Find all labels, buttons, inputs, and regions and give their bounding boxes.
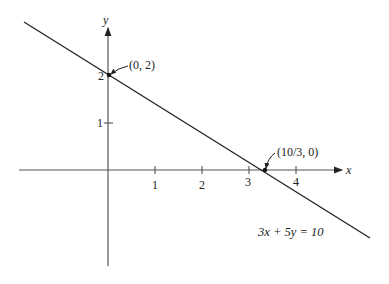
chart-canvas <box>0 0 389 284</box>
arrow-y-intercept <box>111 66 128 74</box>
x-axis-label: x <box>346 164 351 176</box>
x-tick-label-2: 2 <box>199 179 205 191</box>
equation-label: 3x + 5y = 10 <box>258 226 323 239</box>
arrow-x-intercept <box>266 153 275 168</box>
x-tick-label-3: 3 <box>245 176 251 188</box>
point-y-intercept <box>107 73 111 77</box>
y-axis-label: y <box>103 14 108 26</box>
y-tick-label-2: 2 <box>98 70 104 82</box>
x-tick-label-1: 1 <box>152 179 158 191</box>
y-tick-label-1: 1 <box>97 117 103 129</box>
point-x-intercept <box>263 168 267 172</box>
annotation-y-intercept: (0, 2) <box>129 59 155 71</box>
x-tick-label-4: 4 <box>293 176 299 188</box>
annotation-x-intercept: (10/3, 0) <box>277 146 318 158</box>
equation-line <box>24 22 370 238</box>
